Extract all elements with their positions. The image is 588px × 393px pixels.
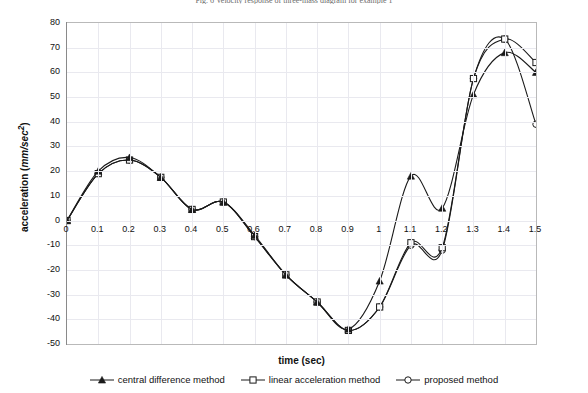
legend-marker-triangle	[90, 375, 114, 385]
x-tick-label: 1	[376, 225, 381, 234]
grid-line-horizontal	[67, 295, 536, 296]
x-tick-label: 1.4	[497, 225, 510, 234]
figure-title: Fig. 6 Velocity response of three-mass d…	[0, 0, 588, 4]
x-tick-label: 0.7	[279, 225, 292, 234]
x-tick-label: 0.6	[247, 225, 260, 234]
grid-line-vertical	[130, 23, 131, 344]
x-tick-label: 1.2	[435, 225, 448, 234]
y-axis-title-unit: mm/sec	[19, 130, 30, 167]
grid-line-horizontal	[67, 146, 536, 147]
chart-legend: central difference methodlinear accelera…	[0, 374, 588, 385]
x-tick-label: 0.3	[154, 225, 167, 234]
grid-line-horizontal	[67, 221, 536, 222]
x-tick-label: 1.5	[529, 225, 542, 234]
chart-canvas	[67, 23, 536, 344]
series-line	[67, 52, 536, 329]
grid-line-vertical	[98, 23, 99, 344]
y-tick-label: 70	[8, 43, 60, 52]
legend-label: linear acceleration method	[269, 374, 380, 385]
grid-line-vertical	[161, 23, 162, 344]
x-tick-label: 0.4	[185, 225, 198, 234]
grid-line-horizontal	[67, 270, 536, 271]
grid-line-vertical	[255, 23, 256, 344]
y-axis-title-exponent: 2	[16, 126, 26, 131]
x-tick-label: 0.2	[122, 225, 135, 234]
legend-label: central difference method	[118, 374, 225, 385]
y-axis-title-text: acceleration (	[19, 168, 30, 232]
y-tick-label: -20	[8, 265, 60, 274]
y-tick-label: -40	[8, 314, 60, 323]
x-tick-label: 0.9	[341, 225, 354, 234]
grid-line-horizontal	[67, 122, 536, 123]
y-axis-title-close: )	[19, 122, 30, 125]
marker-circle	[405, 376, 411, 382]
grid-line-vertical	[192, 23, 193, 344]
y-tick-label: -50	[8, 339, 60, 348]
grid-line-horizontal	[67, 171, 536, 172]
legend-label: proposed method	[424, 374, 498, 385]
grid-line-vertical	[348, 23, 349, 344]
series-line	[67, 37, 536, 331]
plot-area	[66, 22, 537, 345]
grid-line-horizontal	[67, 196, 536, 197]
grid-line-horizontal	[67, 48, 536, 49]
y-tick-label: 60	[8, 67, 60, 76]
legend-item-3[interactable]: proposed method	[396, 374, 498, 385]
x-tick-label: 1.3	[466, 225, 479, 234]
grid-line-vertical	[505, 23, 506, 344]
x-tick-label: 1.1	[404, 225, 417, 234]
marker-square	[250, 376, 256, 382]
x-tick-label: 0	[63, 225, 68, 234]
figure-container: Fig. 6 Velocity response of three-mass d…	[0, 0, 588, 393]
grid-line-vertical	[473, 23, 474, 344]
x-tick-label: 0.5	[216, 225, 229, 234]
series-central-difference-method	[67, 49, 536, 332]
grid-line-horizontal	[67, 319, 536, 320]
y-axis-line	[66, 22, 67, 345]
grid-line-vertical	[223, 23, 224, 344]
legend-item-2[interactable]: linear acceleration method	[241, 374, 380, 385]
legend-marker-square	[241, 375, 265, 385]
grid-line-horizontal	[67, 72, 536, 73]
legend-item-1[interactable]: central difference method	[90, 374, 225, 385]
y-tick-label: -30	[8, 290, 60, 299]
x-tick-label: 0.8	[310, 225, 323, 234]
grid-line-horizontal	[67, 245, 536, 246]
legend-marker-circle	[396, 375, 420, 385]
grid-line-vertical	[380, 23, 381, 344]
grid-line-vertical	[442, 23, 443, 344]
grid-line-vertical	[411, 23, 412, 344]
y-axis-title: acceleration (mm/sec2)	[16, 97, 30, 257]
grid-line-vertical	[317, 23, 318, 344]
y-tick-label: 80	[8, 18, 60, 27]
grid-line-vertical	[286, 23, 287, 344]
series-line	[67, 39, 536, 331]
grid-line-horizontal	[67, 97, 536, 98]
x-tick-label: 0.1	[91, 225, 104, 234]
marker-square	[533, 59, 536, 65]
x-axis-title: time (sec)	[66, 355, 537, 366]
